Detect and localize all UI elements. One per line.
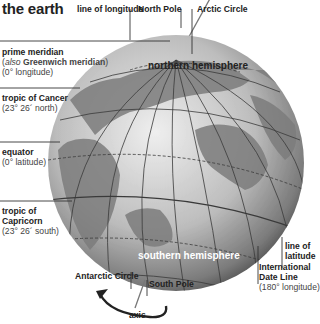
label-north-pole: North Pole [138,4,181,14]
label-tropic-of-capricorn: tropic of Capricorn (23° 26´ south) [2,206,59,236]
label-south-pole: South Pole [149,279,194,289]
label-equator: equator (0° latitude) [2,147,46,167]
label-line-of-longitude: line of longitude [77,4,143,14]
page-title: the earth [2,0,64,17]
label-prime-meridian: prime meridian (also Greenwich meridian)… [2,47,108,77]
label-arctic-circle: Arctic Circle [197,4,248,14]
label-southern-hemisphere: southern hemisphere [138,250,240,261]
label-line-of-latitude: line of latitude [285,241,316,261]
label-axis: axis [129,310,146,320]
label-international-date-line: International Date Line (180° longitude) [259,262,320,292]
label-tropic-of-cancer: tropic of Cancer (23° 26´ north) [2,93,68,113]
label-northern-hemisphere: northern hemisphere [148,60,248,71]
label-antarctic-circle: Antarctic Circle [75,271,139,281]
